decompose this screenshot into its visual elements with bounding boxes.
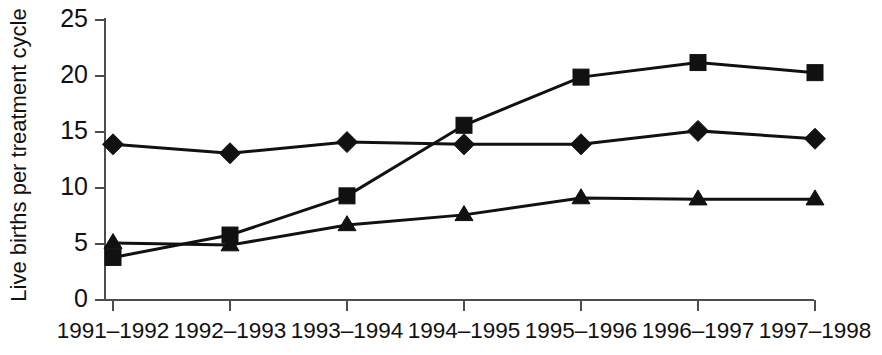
data-point-diamond: [337, 132, 358, 153]
data-point-diamond: [805, 128, 826, 149]
series-marker-group: [103, 55, 826, 266]
y-tick-label: 0: [74, 284, 88, 312]
x-tick-label: 1991–1992: [57, 318, 170, 343]
chart-figure: Live births per treatment cycle 05101520…: [0, 0, 882, 355]
series-line-square: [113, 63, 815, 258]
x-tick-group: [113, 300, 815, 311]
x-tick-label: 1997–1998: [759, 318, 872, 343]
data-point-square: [105, 249, 121, 265]
y-axis-title: Live births per treatment cycle: [6, 8, 31, 301]
data-point-square: [690, 55, 706, 71]
data-point-diamond: [688, 120, 709, 141]
x-tick-label: 1993–1994: [291, 318, 404, 343]
x-tick-label: 1992–1993: [174, 318, 287, 343]
line-chart-canvas: Live births per treatment cycle 05101520…: [0, 0, 882, 355]
data-point-triangle: [572, 189, 590, 204]
data-point-diamond: [220, 143, 241, 164]
data-point-triangle: [806, 190, 824, 205]
x-tick-label: 1994–1995: [408, 318, 521, 343]
data-point-diamond: [454, 134, 475, 155]
x-label-group: 1991–19921992–19931993–19941994–19951995…: [57, 318, 872, 343]
x-tick-label: 1996–1997: [642, 318, 755, 343]
data-point-square: [573, 69, 589, 85]
y-tick-label: 20: [60, 60, 88, 88]
y-tick-label: 25: [60, 4, 88, 32]
y-tick-label: 10: [60, 172, 88, 200]
y-tick-group: 0510152025: [60, 4, 105, 312]
y-tick-label: 5: [74, 228, 88, 256]
y-tick-label: 15: [60, 116, 88, 144]
x-tick-label: 1995–1996: [525, 318, 638, 343]
data-point-square: [456, 117, 472, 133]
data-point-diamond: [571, 134, 592, 155]
data-point-triangle: [689, 190, 707, 205]
data-point-square: [339, 188, 355, 204]
data-point-triangle: [104, 234, 122, 249]
data-point-square: [807, 65, 823, 81]
series-line-group: [113, 63, 815, 258]
